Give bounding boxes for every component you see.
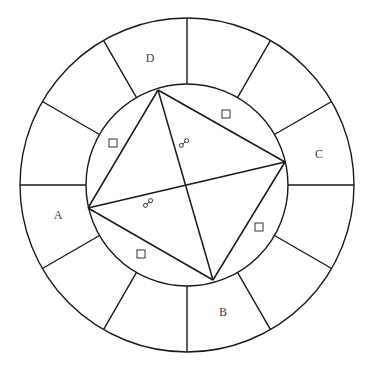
house-label-d: D [146,51,155,65]
square-aspect-icon [222,110,230,118]
house-divider [42,236,99,269]
square-aspect-line [213,162,285,280]
aspect-lines [88,90,285,280]
house-divider [274,102,331,135]
square-aspect-icon [137,250,145,258]
square-aspect-line [88,208,213,280]
house-divider [238,272,271,329]
house-divider [104,272,137,329]
opposition-aspect-icon [143,199,152,208]
house-label-b: B [219,305,227,319]
chart-wheel: DCAB [0,0,376,366]
house-divider [104,40,137,97]
house-label-a: A [54,208,63,222]
house-label-c: C [315,147,323,161]
house-divider [274,236,331,269]
square-aspect-icon [255,223,263,231]
house-divider [238,40,271,97]
house-divider [42,102,99,135]
square-aspect-icon [109,139,117,147]
square-aspect-line [158,90,285,162]
opposition-aspect-line [88,162,285,208]
opposition-aspect-icon [179,139,188,148]
